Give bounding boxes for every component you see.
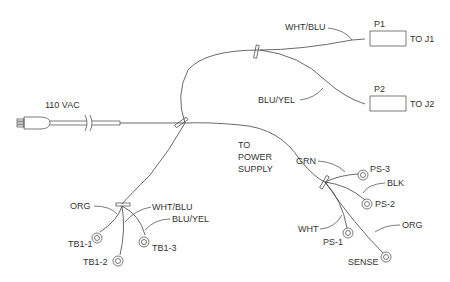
power-plug-icon: [17, 115, 120, 131]
wire-label-org-tb: ORG: [70, 201, 91, 211]
terminal-ps2: PS-2: [375, 199, 395, 209]
ps-label-line1: TO: [238, 140, 250, 150]
wire-label-grn: GRN: [296, 156, 316, 166]
ps-label-line2: POWER: [238, 152, 273, 162]
terminal-tb1-2: TB1-2: [83, 257, 108, 267]
terminal-tb1-1: TB1-1: [68, 239, 93, 249]
wire-label-wht: WHT: [298, 224, 319, 234]
terminal-sense: SENSE: [348, 257, 379, 267]
diagram-canvas: 110 VAC P1 TO J1 WHT/BLU P2 TO J2 BLU/YE…: [0, 0, 450, 282]
terminal-ps3: PS-3: [370, 164, 390, 174]
connector-p2-dest: TO J2: [410, 99, 434, 109]
ring-terminal-icon: [139, 237, 149, 247]
ps-label-line3: SUPPLY: [238, 164, 273, 174]
ring-terminal-icon: [92, 233, 102, 243]
connector-p2: [370, 96, 406, 111]
terminal-tb1-3: TB1-3: [152, 243, 177, 253]
wire-label-wht-blu: WHT/BLU: [285, 22, 326, 32]
wire-label-wht-blu-tb: WHT/BLU: [152, 202, 193, 212]
clamp-icon: [175, 117, 188, 127]
wire-label-blu-yel: BLU/YEL: [258, 95, 295, 105]
wiring-diagram: 110 VAC P1 TO J1 WHT/BLU P2 TO J2 BLU/YE…: [0, 0, 450, 282]
ring-terminal-icon: [381, 252, 391, 262]
terminal-ps1: PS-1: [323, 237, 343, 247]
wire-label-blu-yel-tb: BLU/YEL: [172, 214, 209, 224]
connector-p1: [370, 31, 406, 46]
connector-p1-dest: TO J1: [410, 34, 434, 44]
connector-p1-label: P1: [374, 19, 385, 29]
wire-label-org: ORG: [402, 220, 423, 230]
clamp-icon: [254, 45, 260, 58]
ring-terminal-icon: [362, 199, 372, 209]
power-label: 110 VAC: [45, 100, 80, 110]
wire-label-blk: BLK: [387, 178, 404, 188]
ring-terminal-icon: [113, 256, 123, 266]
ring-terminal-icon: [343, 228, 353, 238]
connector-p2-label: P2: [374, 84, 385, 94]
ring-terminal-icon: [358, 170, 368, 180]
